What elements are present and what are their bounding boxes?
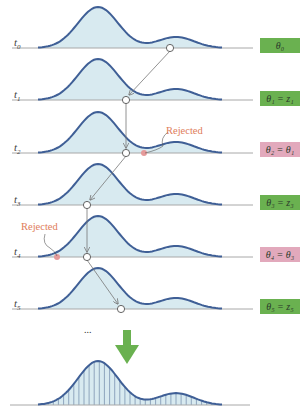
distribution-row-5	[12, 268, 253, 309]
sample-marker-2	[122, 149, 129, 156]
distribution-row-1	[12, 59, 253, 100]
sample-marker-3	[83, 201, 90, 208]
state-badge-2: θ₂ = θ₁	[260, 142, 300, 157]
ellipsis: ...	[84, 324, 92, 335]
sample-marker-0	[166, 44, 173, 51]
distribution-row-2	[12, 112, 253, 153]
down-arrow-icon	[115, 330, 139, 364]
state-badge-5: θ₅ = z₅	[260, 299, 300, 314]
distribution-row-0	[12, 7, 253, 48]
row-label-t1: t1	[14, 88, 21, 103]
sample-marker-4	[83, 253, 90, 260]
row-label-t2: t2	[14, 141, 21, 156]
state-badge-3: θ₃ = z₃	[260, 195, 300, 210]
sample-marker-1	[122, 96, 129, 103]
rejected-leader-2	[44, 234, 57, 256]
state-badge-4: θ₄ = θ₃	[260, 247, 300, 262]
distribution-row-3	[12, 164, 253, 205]
rejected-annotation-2: Rejected	[21, 221, 58, 232]
sample-marker-5	[117, 305, 124, 312]
row-label-t0: t0	[14, 36, 21, 51]
rejected-proposal-marker-1	[54, 254, 60, 260]
state-badge-0: θ₀	[260, 38, 300, 53]
row-label-t3: t3	[14, 193, 21, 208]
row-label-t4: t4	[14, 245, 21, 260]
sample-histogram	[10, 361, 250, 405]
state-badge-1: θ₁ = z₁	[260, 91, 300, 106]
transition-arrow-0	[129, 51, 170, 95]
rejected-annotation-1: Rejected	[166, 125, 203, 136]
row-label-t5: t5	[14, 297, 21, 312]
